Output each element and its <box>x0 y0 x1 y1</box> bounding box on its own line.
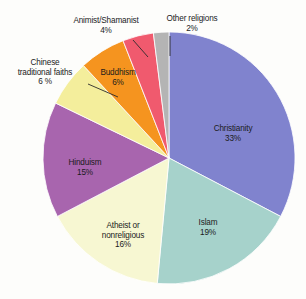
pie-label-buddhism: Buddhism 6% <box>88 68 148 87</box>
pie-label-other-religions: Other religions 2% <box>156 14 228 33</box>
pie-label-hinduism: Hinduism 15% <box>50 158 120 177</box>
pie-chart-container: Christianity 33% Islam 19% Atheist or no… <box>0 0 306 299</box>
pie-chart-svg <box>0 0 306 299</box>
pie-label-atheist-or-nonreligious: Atheist or nonreligious 16% <box>86 221 160 250</box>
pie-label-chinese-traditional-faiths: Chinese traditional faiths 6 % <box>4 58 86 87</box>
pie-label-islam: Islam 19% <box>182 218 234 237</box>
pie-label-christianity: Christianity 33% <box>196 124 270 143</box>
pie-label-animist-shamanist: Animist/Shamanist 4% <box>62 16 150 35</box>
